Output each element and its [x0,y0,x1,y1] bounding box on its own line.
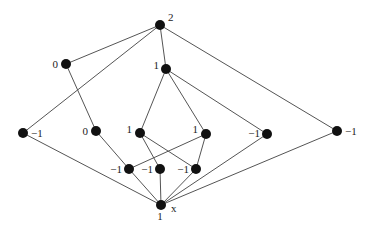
node-label-one_upper: 1 [154,59,160,71]
edge-zero_upper-zero_mid [66,64,96,131]
node-label-bottom: 1 [157,210,163,222]
node-neg_right [332,126,342,136]
edge-top-neg_right [160,25,337,131]
node-neg_low2 [155,164,165,174]
node-label-one_midl: 1 [127,123,133,135]
node-extra-label-bottom: x [171,202,177,214]
edge-one_midr-neg_low3 [196,134,206,169]
node-label-neg_right: −1 [345,125,357,137]
node-label-neg_midr: −1 [248,127,260,139]
node-neg_low1 [124,164,134,174]
node-top [155,20,165,30]
node-label-neg_left: −1 [31,127,43,139]
node-label-neg_low1: −1 [110,163,122,175]
edge-neg_low2-bottom [160,169,161,205]
edge-top-zero_upper [66,25,160,64]
node-zero_upper [61,59,71,69]
labels-layer: 201−1011−1−1−1−1−11x [31,11,357,222]
node-label-zero_upper: 0 [53,58,59,70]
edge-top-neg_left [23,25,160,133]
nodes-layer [18,20,342,210]
node-zero_mid [91,126,101,136]
node-label-top: 2 [168,11,174,23]
edges-layer [23,25,337,205]
node-neg_left [18,128,28,138]
node-neg_midr [262,129,272,139]
node-one_midl [135,128,145,138]
edge-one_upper-neg_midr [166,69,267,134]
edge-top-one_upper [160,25,166,69]
node-one_midr [201,129,211,139]
hasse-diagram: 201−1011−1−1−1−1−11x [0,0,369,233]
node-label-neg_low2: −1 [141,163,153,175]
node-label-zero_mid: 0 [83,125,89,137]
node-neg_low3 [191,164,201,174]
node-one_upper [161,64,171,74]
node-bottom [156,200,166,210]
node-label-neg_low3: −1 [177,163,189,175]
node-label-one_midr: 1 [193,123,199,135]
edge-one_upper-one_midr [166,69,206,134]
edge-one_upper-one_midl [140,69,166,133]
